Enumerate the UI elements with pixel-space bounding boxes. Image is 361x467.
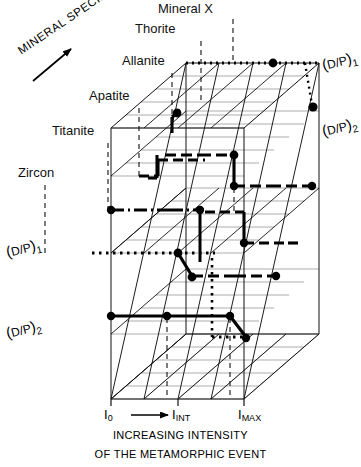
x-axis-ticks <box>111 399 244 406</box>
x-tick-i0: I0 <box>104 407 113 423</box>
x-tick-iint: IINT <box>172 407 190 423</box>
mineral-partition-lines <box>111 63 319 399</box>
x-axis-caption-line2: OF THE METAMORPHIC EVENT <box>0 446 361 461</box>
x-axis-caption-line2-text: OF THE METAMORPHIC EVENT <box>95 448 267 460</box>
x-tick-imax: IMAX <box>238 407 261 423</box>
x-tick-imax-sub: MAX <box>242 413 262 423</box>
path-titanite <box>92 253 276 276</box>
plane-grid <box>111 76 319 334</box>
mineral-species-arrow <box>33 49 71 81</box>
mineral-label-allanite: Allanite <box>122 53 165 68</box>
nodes-allanite <box>240 239 248 247</box>
path-allanite <box>139 160 300 243</box>
mineral-label-thorite: Thorite <box>135 21 175 36</box>
path-thorite <box>148 110 312 186</box>
path-mineral-x <box>186 63 319 105</box>
x-axis-caption-line1: INCREASING INTENSITY <box>0 427 361 442</box>
mineral-label-titanite: Titanite <box>52 123 94 138</box>
box-outline <box>111 63 319 399</box>
mineral-label-apatite: Apatite <box>89 88 129 103</box>
diagram-canvas <box>0 0 361 467</box>
x-axis-caption-line1-text: INCREASING INTENSITY <box>113 429 248 441</box>
x-tick-i0-sub: 0 <box>108 413 113 423</box>
x-tick-iint-sub: INT <box>176 413 191 423</box>
slant-ribs <box>111 63 319 399</box>
mineral-label-mineral-x: Mineral X <box>158 1 213 16</box>
mineral-label-zircon: Zircon <box>18 165 54 180</box>
